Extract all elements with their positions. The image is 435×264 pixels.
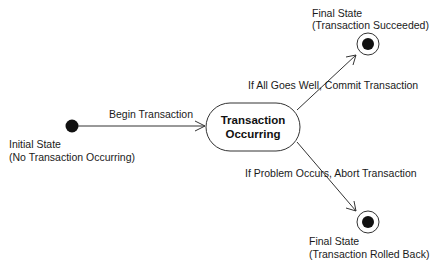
edge-begin-transaction <box>78 121 205 131</box>
initial-state-label-line1: Initial State <box>9 138 61 150</box>
final-rolled-back-label-line2: (Transaction Rolled Back) <box>309 248 429 260</box>
initial-state-node <box>66 120 79 133</box>
state-transaction-occurring <box>206 103 300 151</box>
edge-commit-label: If All Goes Well, Commit Transaction <box>248 79 418 91</box>
final-state-succeeded-node <box>357 33 379 55</box>
final-rolled-back-label-line1: Final State <box>309 235 359 247</box>
final-state-rolled-back-node <box>357 211 379 233</box>
state-label-line2: Occurring <box>226 128 281 140</box>
final-succeeded-label-line1: Final State <box>312 7 362 19</box>
edge-abort-label: If Problem Occurs, Abort Transaction <box>245 167 417 179</box>
edge-begin-label: Begin Transaction <box>109 108 193 120</box>
diagram-svg: Initial State (No Transaction Occurring)… <box>0 0 435 264</box>
state-label-line1: Transaction <box>221 114 286 126</box>
final-succeeded-label-line2: (Transaction Succeeded) <box>312 19 429 31</box>
initial-state-label-line2: (No Transaction Occurring) <box>9 151 135 163</box>
state-diagram: Initial State (No Transaction Occurring)… <box>0 0 435 264</box>
